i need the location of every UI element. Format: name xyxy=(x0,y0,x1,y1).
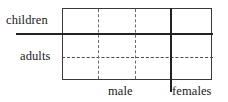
partition-outer-box xyxy=(62,8,212,80)
male-inner-dashed-line-1 xyxy=(98,9,99,79)
partition-diagram-figure: children adults male females xyxy=(0,0,228,102)
label-male: male xyxy=(108,84,133,98)
children-adults-divider-line xyxy=(16,33,213,35)
label-children: children xyxy=(6,13,48,27)
male-inner-dashed-line-2 xyxy=(135,9,136,79)
label-females: females xyxy=(172,84,212,98)
male-females-divider-line xyxy=(170,8,172,92)
adults-inner-dashed-line xyxy=(62,57,213,58)
label-adults: adults xyxy=(20,49,50,63)
